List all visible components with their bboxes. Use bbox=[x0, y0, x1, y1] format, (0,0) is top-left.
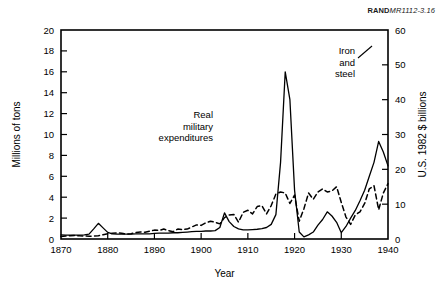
x-axis-title: Year bbox=[214, 268, 235, 279]
annotation-real-military-expenditures: military bbox=[183, 121, 213, 132]
annotation-iron-and-steel: steel bbox=[335, 68, 355, 79]
chart-figure: RANDMR1112-3.16 187018801890190019101920… bbox=[0, 0, 444, 284]
y2-tick-label: 10 bbox=[395, 199, 406, 210]
annotation-real-military-expenditures: expenditures bbox=[159, 132, 214, 143]
y2-tick-label: 20 bbox=[395, 164, 406, 175]
line-chart: 1870188018901900191019201930194002468101… bbox=[0, 0, 444, 284]
series-line-real-military-expenditures bbox=[61, 72, 388, 237]
x-tick-label: 1920 bbox=[284, 244, 305, 255]
rand-logo-text: RAND bbox=[367, 6, 389, 15]
y-tick-label: 12 bbox=[43, 108, 54, 119]
annotations-layer: RealmilitaryexpendituresIronandsteel bbox=[159, 45, 372, 143]
x-tick-label: 1930 bbox=[331, 244, 352, 255]
y-tick-label: 4 bbox=[49, 192, 54, 203]
series-layer bbox=[61, 72, 388, 237]
y-tick-label: 10 bbox=[43, 129, 54, 140]
y2-tick-label: 30 bbox=[395, 129, 406, 140]
y2-axis-title: U.S. 1982 $ billions bbox=[417, 91, 428, 177]
y-axis-title: Millions of tons bbox=[11, 101, 22, 167]
axis-titles-layer: Millions of tonsU.S. 1982 $ billionsYear bbox=[11, 91, 428, 279]
x-tick-label: 1940 bbox=[377, 244, 398, 255]
y2-tick-label: 60 bbox=[395, 25, 406, 36]
y-tick-label: 8 bbox=[49, 150, 54, 161]
rand-document-number: MR1112-3.16 bbox=[390, 6, 435, 15]
x-tick-label: 1910 bbox=[237, 244, 258, 255]
x-tick-label: 1870 bbox=[50, 244, 71, 255]
x-tick-label: 1880 bbox=[97, 244, 118, 255]
y-tick-label: 14 bbox=[43, 87, 54, 98]
annotation-leader-line bbox=[358, 46, 372, 58]
y-tick-label: 16 bbox=[43, 66, 54, 77]
x-tick-label: 1890 bbox=[144, 244, 165, 255]
annotation-real-military-expenditures: Real bbox=[193, 109, 213, 120]
annotation-iron-and-steel: Iron bbox=[339, 45, 355, 56]
y2-tick-label: 50 bbox=[395, 59, 406, 70]
annotation-iron-and-steel: and bbox=[339, 57, 355, 68]
y2-tick-label: 40 bbox=[395, 94, 406, 105]
y2-tick-label: 0 bbox=[395, 234, 400, 245]
y-tick-label: 2 bbox=[49, 213, 54, 224]
y-tick-label: 6 bbox=[49, 171, 54, 182]
rand-document-credit: RANDMR1112-3.16 bbox=[367, 6, 435, 15]
y-tick-label: 18 bbox=[43, 45, 54, 56]
y-tick-label: 0 bbox=[49, 234, 54, 245]
y-tick-label: 20 bbox=[43, 25, 54, 36]
x-tick-label: 1900 bbox=[191, 244, 212, 255]
